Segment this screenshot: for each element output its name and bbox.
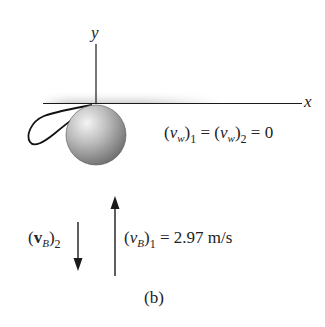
ball-icon: [66, 105, 126, 165]
velocity-after-var: v: [34, 228, 43, 247]
figure-caption: (b): [144, 289, 164, 306]
diagram-canvas: [0, 0, 325, 327]
velocity-after-label: (vB)2: [28, 229, 61, 246]
velocity-before-sub: B: [137, 237, 144, 249]
wall-velocity-eq-1: =: [200, 123, 210, 142]
velocity-before-value: = 2.97 m/s: [160, 228, 232, 247]
wall-velocity-sub-2: w: [228, 132, 235, 144]
y-axis-label: y: [91, 24, 99, 41]
velocity-after-idx: 2: [55, 237, 61, 251]
velocity-before-idx: 1: [150, 237, 156, 251]
wall-surface: [40, 90, 220, 103]
wall-velocity-value: 0: [265, 123, 274, 142]
velocity-after-sub: B: [42, 237, 49, 249]
velocity-before-arrow: [111, 196, 120, 276]
wall-velocity-equation: (vw)1 = (vw)2 = 0: [164, 124, 273, 141]
wall-velocity-var-2: v: [220, 123, 228, 142]
velocity-before-label: (vB)1 = 2.97 m/s: [124, 229, 232, 246]
wall-velocity-idx-1: 1: [190, 132, 196, 146]
wall-velocity-idx-2: 2: [241, 132, 247, 146]
wall-velocity-sub-1: w: [177, 132, 184, 144]
x-axis-label: x: [304, 93, 312, 110]
wall-velocity-eq-2: =: [251, 123, 261, 142]
velocity-after-arrow: [74, 222, 83, 271]
